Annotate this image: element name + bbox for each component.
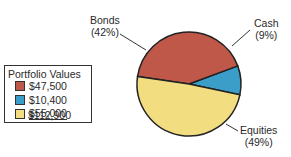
legend-item-bonds: $47,500 xyxy=(15,80,67,92)
legend-item-cash: $10,400 xyxy=(15,94,67,106)
label-bonds-pct: (42%) xyxy=(90,26,120,38)
label-bonds-name: Bonds xyxy=(90,14,120,26)
legend-title: Portfolio Values xyxy=(8,68,81,80)
label-bonds: Bonds (42%) xyxy=(90,14,120,38)
label-cash-name: Cash xyxy=(254,17,279,29)
label-equities-pct: (49%) xyxy=(240,136,277,148)
label-equities-name: Equities xyxy=(240,124,277,136)
label-cash-pct: (9%) xyxy=(254,29,279,41)
swatch-cash xyxy=(15,95,25,105)
legend-total: $112,900 xyxy=(28,109,71,121)
swatch-bonds xyxy=(15,81,25,91)
swatch-equities xyxy=(15,109,25,119)
legend-value-bonds: $47,500 xyxy=(29,80,67,92)
legend-value-cash: $10,400 xyxy=(29,94,67,106)
label-cash: Cash (9%) xyxy=(254,17,279,41)
label-equities: Equities (49%) xyxy=(240,124,277,148)
